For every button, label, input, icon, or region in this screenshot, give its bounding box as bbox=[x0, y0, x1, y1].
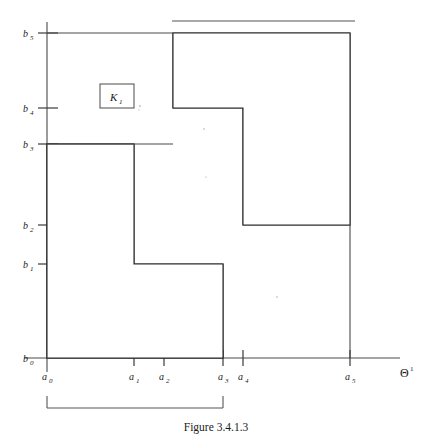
a-tick-sub: 1 bbox=[136, 377, 140, 385]
k1-callout: K 1 bbox=[100, 84, 141, 108]
a-axis-labels: a0a1a2a3a4a5 bbox=[42, 371, 356, 385]
bottom-bracket bbox=[47, 396, 223, 408]
theta-superscript: 1 bbox=[410, 365, 414, 373]
lower-left-L-region bbox=[47, 144, 223, 358]
upper-right-L-region bbox=[173, 33, 350, 225]
a-tick-label: a bbox=[345, 371, 350, 382]
theta-glyph: Θ bbox=[400, 366, 409, 380]
b-tick-sub: 4 bbox=[30, 109, 34, 117]
b-tick-label: b bbox=[23, 28, 28, 39]
b-tick-label: b bbox=[23, 103, 28, 114]
theta-axis-label: Θ1 bbox=[400, 365, 414, 380]
b-tick-sub: 0 bbox=[30, 359, 34, 367]
figure-container: K 1 b0b1b2b3b4b5 a0a1a2a3a4a5 Θ1 Figure … bbox=[0, 0, 432, 442]
b-tick-label: b bbox=[23, 259, 28, 270]
b-tick-label: b bbox=[23, 220, 28, 231]
b-tick-sub: 2 bbox=[30, 226, 34, 234]
figure-caption-holder: Figure 3.4.1.3 bbox=[0, 417, 432, 435]
a-tick-sub: 3 bbox=[224, 377, 229, 385]
b-axis-labels: b0b1b2b3b4b5 bbox=[23, 28, 34, 367]
a-tick-label: a bbox=[159, 371, 164, 382]
b-tick-label: b bbox=[23, 353, 28, 364]
figure-svg: K 1 b0b1b2b3b4b5 a0a1a2a3a4a5 Θ1 bbox=[0, 0, 432, 442]
figure-caption: Figure 3.4.1.3 bbox=[184, 421, 249, 433]
a-tick-label: a bbox=[42, 371, 47, 382]
b-tick-sub: 5 bbox=[30, 34, 34, 42]
k1-label: K bbox=[109, 91, 118, 103]
a-tick-sub: 5 bbox=[352, 377, 356, 385]
a-tick-label: a bbox=[218, 371, 223, 382]
b-tick-sub: 1 bbox=[30, 265, 34, 273]
k1-label-sub: 1 bbox=[119, 98, 123, 106]
b-tick-sub: 3 bbox=[29, 145, 34, 153]
a-tick-sub: 0 bbox=[49, 377, 53, 385]
a-tick-label: a bbox=[129, 371, 134, 382]
a-tick-sub: 2 bbox=[166, 377, 170, 385]
b-tick-label: b bbox=[23, 139, 28, 150]
a-tick-sub: 4 bbox=[245, 377, 249, 385]
a-tick-label: a bbox=[238, 371, 243, 382]
